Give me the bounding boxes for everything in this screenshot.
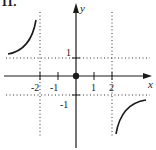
origin-point (73, 73, 79, 79)
x-tick-label: -1 (50, 82, 58, 93)
graph: y x -2 -1 1 2 1 -1 (0, 0, 156, 150)
y-tick-label: -1 (60, 99, 68, 110)
x-axis-label: x (147, 78, 153, 90)
x-tick-label: 2 (109, 82, 114, 93)
x-tick-label: -2 (31, 82, 39, 93)
y-axis-label: y (79, 2, 85, 14)
curve-right-branch (116, 100, 146, 134)
y-axis-arrow-icon (73, 3, 79, 13)
x-tick-label: 1 (91, 82, 96, 93)
curve-left-branch (8, 20, 36, 54)
y-tick-label: 1 (66, 47, 71, 58)
